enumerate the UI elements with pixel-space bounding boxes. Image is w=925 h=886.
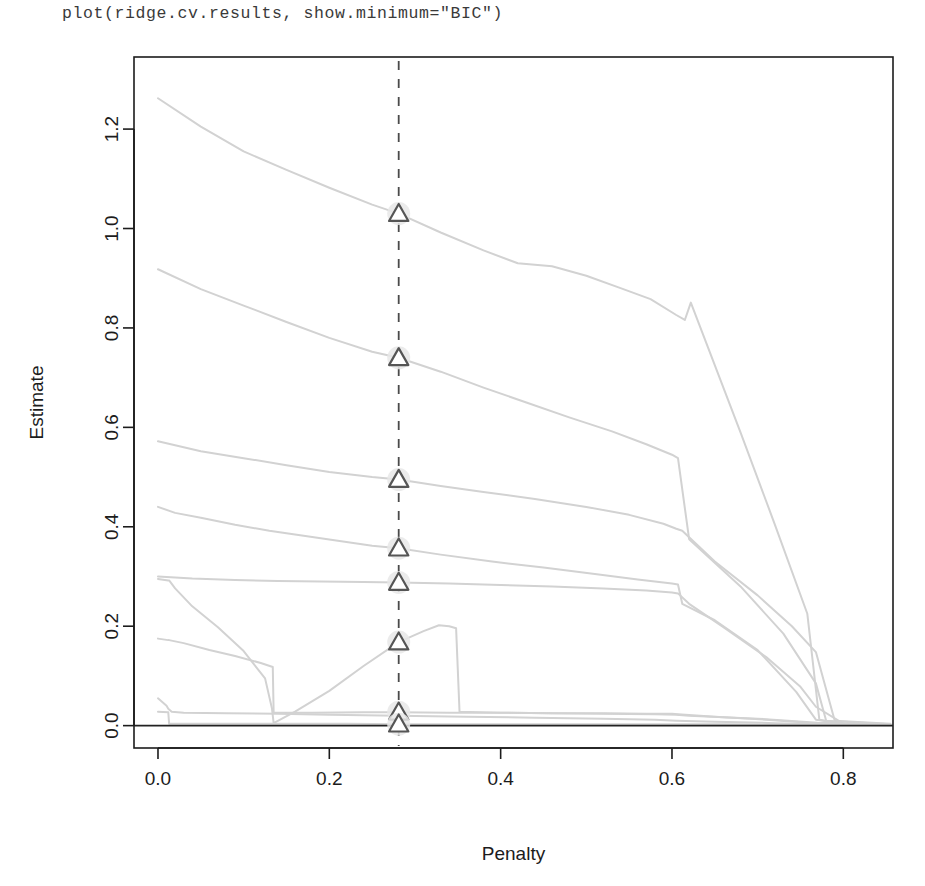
y-axis-tick-label: 0.0 [102,712,123,738]
curve-coef-7 [158,639,890,725]
y-axis-tick-label: 0.6 [102,414,123,440]
y-axis-tick-label: 0.2 [102,613,123,639]
plot-panel-border [134,57,893,748]
x-axis-tick-label: 0.4 [487,768,514,789]
curve-coef-5 [158,576,890,724]
x-axis-tick-label: 0.8 [830,768,856,789]
curve-coef-3 [158,441,890,723]
x-axis-tick-label: 0.2 [316,768,342,789]
ridge-trace-plot: 0.00.20.40.60.8Penalty0.00.20.40.60.81.0… [0,0,925,886]
y-axis-tick-label: 0.8 [102,315,123,341]
plot-window: plot(ridge.cv.results, show.minimum="BIC… [0,0,925,886]
y-axis-tick-label: 1.2 [102,116,123,142]
y-axis-title: Estimate [26,366,47,440]
y-axis-tick-label: 1.0 [102,215,123,241]
x-axis-title: Penalty [482,843,546,864]
curve-coef-6 [158,579,890,725]
x-axis-tick-label: 0.6 [659,768,685,789]
x-axis-tick-label: 0.0 [145,768,171,789]
y-axis-tick-label: 0.4 [102,513,123,540]
